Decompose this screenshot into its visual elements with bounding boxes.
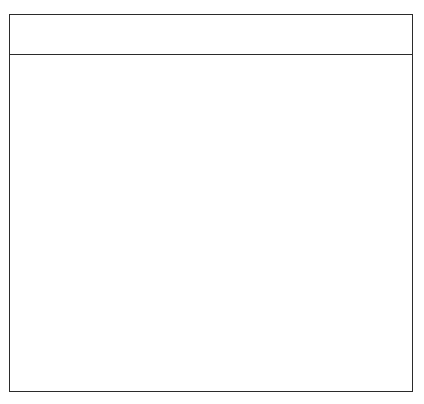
charts-container [10, 55, 412, 391]
page-title [20, 19, 402, 34]
urss-line-chart-svg [10, 59, 414, 219]
chart-pays-est [10, 219, 412, 404]
chart-urss [10, 59, 412, 219]
figure-frame [9, 14, 413, 392]
figure-title-band [10, 15, 412, 55]
pays-est-line-chart-svg [10, 219, 414, 404]
